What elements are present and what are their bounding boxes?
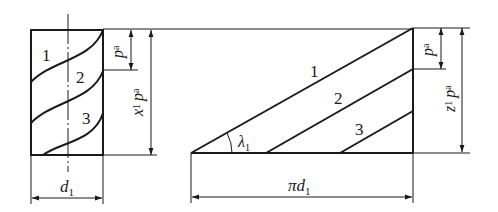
right-labels: 1 2 3 λ1 πd1 pa z1pa (237, 43, 459, 197)
thread-curve-2 (31, 71, 103, 123)
pitch-label-right: pa (419, 43, 437, 57)
thread-label-2: 2 (76, 68, 85, 87)
lead-label-right: z1pa (441, 85, 459, 113)
helix-line-3 (340, 111, 413, 153)
helix-line-1 (191, 28, 413, 153)
svg-text:z1pa: z1pa (441, 85, 459, 113)
svg-text:pa: pa (419, 43, 437, 57)
helix-label-1: 1 (310, 62, 319, 81)
helix-line-2 (266, 69, 413, 153)
circumference-label: πd1 (288, 176, 311, 197)
svg-text:pa: pa (109, 45, 127, 59)
pitch-label-left: pa (109, 45, 127, 59)
helix-label-2: 2 (334, 89, 343, 108)
thread-label-1: 1 (42, 46, 51, 65)
svg-text:x1pa: x1pa (129, 88, 147, 117)
helix-label-3: 3 (355, 120, 364, 139)
lead-angle-label: λ1 (237, 133, 250, 153)
thread-curve-3 (43, 113, 103, 155)
diameter-label: d1 (60, 177, 74, 198)
angle-arc (227, 133, 232, 153)
worm-thread-diagram: 1 2 3 d1 pa x1pa 1 2 3 λ1 πd1 (0, 0, 498, 212)
thread-label-3: 3 (82, 109, 91, 128)
lead-label-left: x1pa (129, 88, 147, 117)
